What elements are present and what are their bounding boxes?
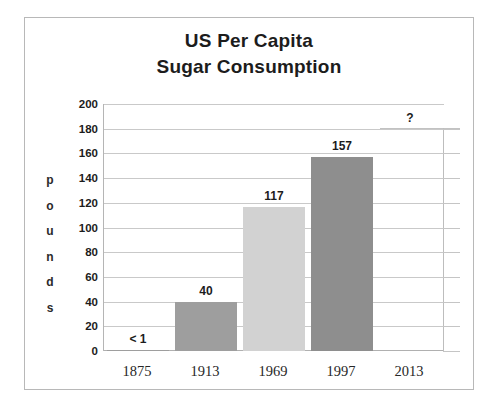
secondary-axis-tick: [443, 277, 460, 278]
y-axis-tick-label: 200: [58, 98, 98, 110]
y-axis-title-letter-u: u: [40, 219, 60, 245]
bar-column[interactable]: < 1: [104, 104, 172, 351]
secondary-axis-tick: [443, 178, 460, 179]
y-axis-tick-label: 60: [58, 271, 98, 283]
y-axis-tick-label: 80: [58, 246, 98, 258]
y-axis-tick-label: 140: [58, 172, 98, 184]
chart-page: US Per Capita Sugar Consumption p o u n …: [0, 0, 499, 415]
x-axis-tick-label: 1913: [171, 363, 239, 380]
y-axis-tick-label: 160: [58, 147, 98, 159]
x-axis-tick-label: 1875: [103, 363, 171, 380]
page-title: US Per Capita Sugar Consumption: [24, 28, 474, 80]
y-axis-tick-label: 120: [58, 197, 98, 209]
bar-value-label: 117: [240, 190, 308, 203]
secondary-axis-tick: [443, 228, 460, 229]
y-axis-tick-labels: 200180160140120100806040200: [58, 96, 98, 358]
y-axis-tick-label: 100: [58, 222, 98, 234]
bar[interactable]: [311, 157, 372, 351]
plot-area: < 140117157?: [103, 104, 443, 351]
chart-title-line-2: Sugar Consumption: [24, 54, 474, 80]
x-axis-tick-label: 1969: [239, 363, 307, 380]
secondary-axis-rule: [443, 128, 444, 351]
y-axis-title-letter-n: n: [40, 245, 60, 271]
y-axis-tick-label: 40: [58, 296, 98, 308]
bar-value-label: ?: [376, 112, 444, 125]
secondary-axis-tick: [443, 203, 460, 204]
chart-title-line-1: US Per Capita: [24, 28, 474, 54]
bar-value-label: 157: [308, 140, 376, 153]
bar-column[interactable]: 40: [172, 104, 240, 351]
secondary-axis-tick: [443, 302, 460, 303]
bar-value-label: 40: [172, 285, 240, 298]
x-axis-tick-label: 2013: [375, 363, 443, 380]
y-axis-tick-label: 180: [58, 123, 98, 135]
y-axis-title-letter-s: s: [40, 296, 60, 322]
secondary-axis-tick: [443, 351, 460, 352]
y-axis-title-letter-p: p: [40, 168, 60, 194]
x-axis-tick-labels: 18751913196919972013: [103, 363, 443, 383]
x-axis-tick-label: 1997: [307, 363, 375, 380]
bar-column[interactable]: ?: [376, 104, 444, 351]
bar[interactable]: [175, 302, 236, 351]
secondary-axis-tick: [443, 326, 460, 327]
y-axis-title-letter-d: d: [40, 270, 60, 296]
secondary-axis-tick: [443, 252, 460, 253]
y-axis-tick-label: 20: [58, 320, 98, 332]
bar[interactable]: [243, 207, 304, 351]
bar-series: < 140117157?: [104, 104, 444, 351]
secondary-axis-tick: [443, 129, 460, 130]
y-axis-title: p o u n d s: [40, 168, 60, 321]
bar-column[interactable]: 117: [240, 104, 308, 351]
bar[interactable]: [107, 350, 168, 352]
bar-value-label: < 1: [104, 333, 172, 346]
bar-column[interactable]: 157: [308, 104, 376, 351]
secondary-axis-tick: [443, 153, 460, 154]
y-axis-tick-label: 0: [58, 345, 98, 357]
y-axis-title-letter-o: o: [40, 194, 60, 220]
